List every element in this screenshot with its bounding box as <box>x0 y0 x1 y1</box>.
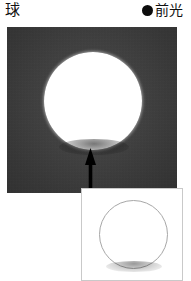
filled-circle-marker-icon <box>142 5 153 16</box>
inset-sketch-panel <box>81 188 183 281</box>
figure-header: 球 前光 <box>0 0 191 26</box>
sphere-subject <box>44 52 142 150</box>
page-title: 球 <box>5 1 20 20</box>
annotation-arrow-up-icon <box>83 148 98 193</box>
inset-sphere-outline <box>99 200 168 269</box>
legend: 前光 <box>142 2 183 19</box>
legend-label: 前光 <box>155 2 183 19</box>
